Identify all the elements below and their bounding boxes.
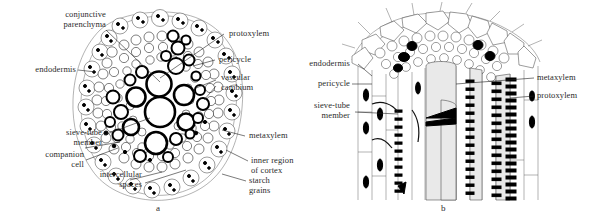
label-protoxylem-b: protoxylem bbox=[537, 91, 577, 101]
label-endodermis-a: endodermis bbox=[10, 65, 76, 75]
botanical-figure: conjunctive parenchyma endodermis protox… bbox=[0, 0, 602, 224]
panel-b-drawing bbox=[342, 2, 542, 200]
label-starch-grains: starch grains bbox=[249, 176, 270, 195]
panel-letter-b: b bbox=[441, 203, 446, 213]
label-protoxylem-a: protoxylem bbox=[229, 29, 269, 39]
label-pericycle-b: pericycle bbox=[294, 79, 350, 89]
label-inner-region-of-cortex: inner region of cortex bbox=[251, 156, 294, 175]
label-companion-cell: companion cell bbox=[18, 150, 84, 169]
label-pericycle-a: pericycle bbox=[219, 55, 251, 65]
label-conjunctive-parenchyma: conjunctive parenchyma bbox=[34, 10, 106, 29]
label-endodermis-b: endodermis bbox=[284, 59, 350, 69]
metaxylem-vessel bbox=[145, 97, 175, 127]
label-metaxylem-b: metaxylem bbox=[537, 73, 576, 83]
label-metaxylem-a: metaxylem bbox=[249, 131, 288, 141]
panel-letter-a: a bbox=[156, 203, 160, 213]
label-vascular-cambium: vascular cambium bbox=[221, 73, 253, 92]
label-sieve-tube-member-a: sieve-tube member bbox=[22, 128, 102, 147]
label-sieve-tube-member-b: sieve-tube member bbox=[276, 101, 350, 120]
label-intercellular-spaces: intercellular spaces bbox=[40, 170, 142, 189]
